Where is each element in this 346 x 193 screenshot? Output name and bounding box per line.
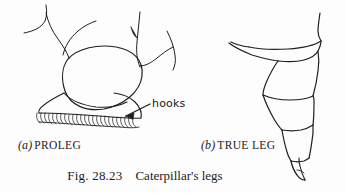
hooks-annotation-label: hooks (152, 97, 186, 110)
true-leg-illustration (229, 13, 321, 180)
coxa (231, 13, 321, 49)
panel-b-paren: (b) (201, 138, 215, 152)
panel-label-b: (b)TRUE LEG (201, 138, 275, 153)
proleg-body-oval (63, 46, 143, 110)
figure-caterpillar-legs: (a)PROLEG (b)TRUE LEG hooks Fig. 28.23Ca… (0, 0, 346, 193)
femur (263, 51, 319, 100)
figure-title: Caterpillar's legs (135, 168, 222, 183)
figure-number: Fig. 28.23 (67, 168, 122, 183)
body-wall-folds (24, 5, 175, 70)
panel-b-name: TRUE LEG (215, 139, 275, 151)
figure-caption: Fig. 28.23Caterpillar's legs (0, 168, 290, 184)
planta (39, 93, 142, 118)
panel-a-paren: (a) (18, 138, 32, 152)
panel-a-name: PROLEG (32, 139, 81, 151)
trochanter (229, 41, 321, 62)
panel-label-a: (a)PROLEG (18, 138, 81, 153)
seta-mark (131, 27, 137, 38)
